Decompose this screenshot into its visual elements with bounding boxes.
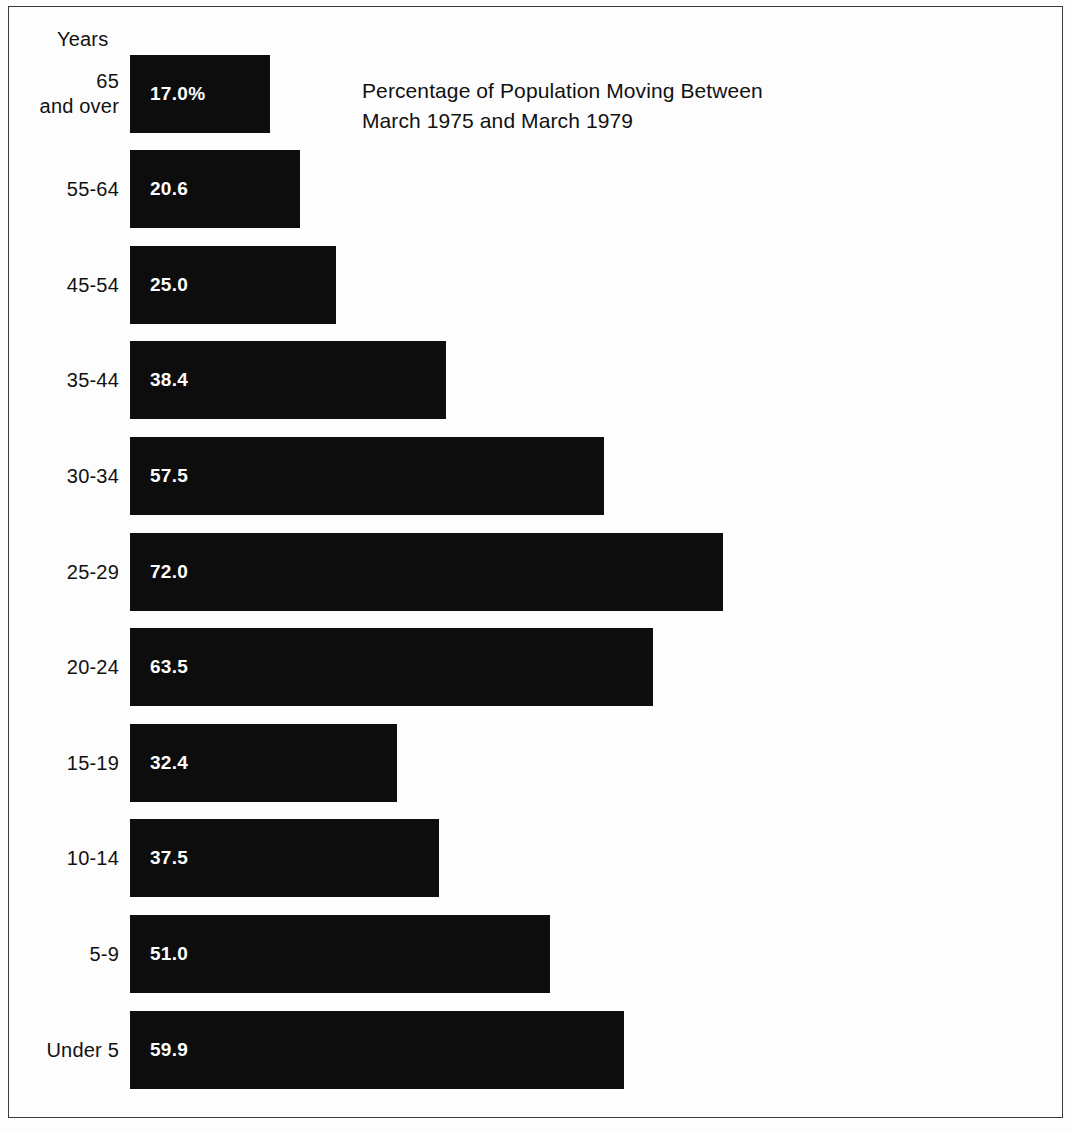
bar-value-label: 57.5 bbox=[150, 465, 188, 487]
bar-value-label: 25.0 bbox=[150, 274, 188, 296]
bar-value-label: 20.6 bbox=[150, 178, 188, 200]
bar: 72.0 bbox=[130, 533, 723, 611]
bar-value-label: 63.5 bbox=[150, 656, 188, 678]
bar-chart: Years Percentage of Population Moving Be… bbox=[0, 0, 1073, 1131]
bar: 63.5 bbox=[130, 628, 653, 706]
bar-value-label: 51.0 bbox=[150, 943, 188, 965]
bar-row: 65 and over17.0% bbox=[0, 55, 1073, 133]
category-label: Under 5 bbox=[18, 1038, 119, 1063]
bar: 17.0% bbox=[130, 55, 270, 133]
bar: 51.0 bbox=[130, 915, 550, 993]
bar-value-label: 59.9 bbox=[150, 1039, 188, 1061]
bar-row: 30-3457.5 bbox=[0, 437, 1073, 515]
bar: 32.4 bbox=[130, 724, 397, 802]
bar: 59.9 bbox=[130, 1011, 624, 1089]
bar-value-label: 37.5 bbox=[150, 847, 188, 869]
bar-row: 55-6420.6 bbox=[0, 150, 1073, 228]
category-label: 45-54 bbox=[18, 273, 119, 298]
bar-row: 5-951.0 bbox=[0, 915, 1073, 993]
bar: 25.0 bbox=[130, 246, 336, 324]
category-label: 15-19 bbox=[18, 751, 119, 776]
bar: 20.6 bbox=[130, 150, 300, 228]
bar-row: 10-1437.5 bbox=[0, 819, 1073, 897]
bar-row: 35-4438.4 bbox=[0, 341, 1073, 419]
bar: 38.4 bbox=[130, 341, 446, 419]
bar-value-label: 17.0% bbox=[150, 83, 205, 105]
bar: 57.5 bbox=[130, 437, 604, 515]
bar-row: Under 559.9 bbox=[0, 1011, 1073, 1089]
bar-row: 20-2463.5 bbox=[0, 628, 1073, 706]
y-axis-title: Years bbox=[57, 28, 108, 51]
chart-page: Years Percentage of Population Moving Be… bbox=[0, 0, 1073, 1131]
category-label: 35-44 bbox=[18, 368, 119, 393]
bar-row: 15-1932.4 bbox=[0, 724, 1073, 802]
category-label: 65 and over bbox=[18, 69, 119, 119]
category-label: 30-34 bbox=[18, 464, 119, 489]
category-label: 10-14 bbox=[18, 846, 119, 871]
category-label: 55-64 bbox=[18, 177, 119, 202]
bar-value-label: 72.0 bbox=[150, 561, 188, 583]
bar: 37.5 bbox=[130, 819, 439, 897]
bar-row: 25-2972.0 bbox=[0, 533, 1073, 611]
category-label: 20-24 bbox=[18, 655, 119, 680]
bar-value-label: 38.4 bbox=[150, 369, 188, 391]
bar-value-label: 32.4 bbox=[150, 752, 188, 774]
category-label: 25-29 bbox=[18, 560, 119, 585]
bar-row: 45-5425.0 bbox=[0, 246, 1073, 324]
category-label: 5-9 bbox=[18, 942, 119, 967]
